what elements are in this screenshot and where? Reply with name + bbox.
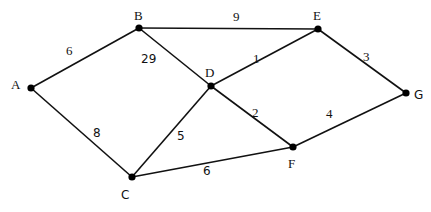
node-label-e: E xyxy=(313,8,321,23)
edge-weight-labels: 6 8 9 29 1 5 2 3 4 6 xyxy=(66,9,370,178)
node-a xyxy=(27,84,34,91)
nodes xyxy=(27,24,409,180)
node-e xyxy=(314,25,321,32)
weight-label-d-e: 1 xyxy=(253,51,260,66)
weight-label-a-b: 6 xyxy=(66,43,73,58)
edges xyxy=(31,28,406,177)
weight-label-b-d: 29 xyxy=(141,52,156,66)
edge-b-e xyxy=(139,28,318,29)
edge-a-c xyxy=(31,88,132,177)
weight-label-e-g: 3 xyxy=(363,49,370,64)
node-d xyxy=(207,82,214,89)
edge-e-g xyxy=(318,29,406,93)
weight-label-d-c: 5 xyxy=(177,129,185,143)
node-label-a: A xyxy=(11,77,21,92)
edge-a-b xyxy=(31,28,139,88)
weight-label-c-f: 6 xyxy=(203,164,211,178)
node-c xyxy=(128,173,135,180)
node-g xyxy=(402,89,409,96)
weighted-graph-diagram: A B C D E F G 6 8 9 29 1 5 2 3 4 6 xyxy=(0,0,431,212)
node-label-b: B xyxy=(134,8,143,23)
node-f xyxy=(289,143,296,150)
edge-f-g xyxy=(293,93,406,147)
node-label-g: G xyxy=(414,88,423,102)
weight-label-a-c: 8 xyxy=(93,126,101,140)
node-label-c: C xyxy=(121,188,129,202)
weight-label-d-f: 2 xyxy=(252,105,259,120)
edge-d-c xyxy=(132,86,211,177)
weight-label-b-e: 9 xyxy=(233,9,240,24)
weight-label-f-g: 4 xyxy=(326,106,333,121)
edge-d-e xyxy=(211,29,318,86)
node-label-d: D xyxy=(205,65,214,80)
node-label-f: F xyxy=(288,156,295,171)
node-b xyxy=(135,24,142,31)
edge-c-f xyxy=(132,147,293,177)
node-labels: A B C D E F G xyxy=(11,8,423,202)
